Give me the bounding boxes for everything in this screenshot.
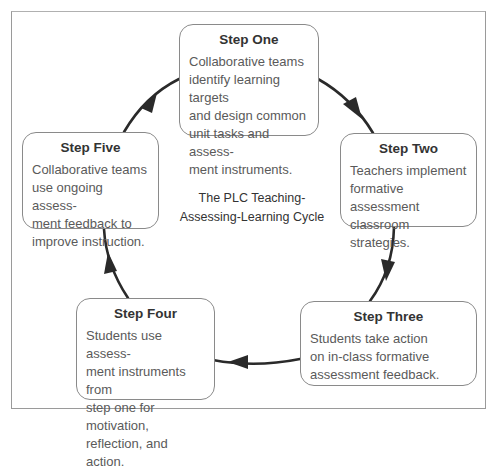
- arrow-three-to-four: [213, 359, 300, 364]
- step-one-box: Step One Collaborative teams identify le…: [179, 24, 319, 136]
- step-two-box: Step Two Teachers implement formative as…: [340, 133, 477, 227]
- step-four-box: Step Four Students use assess- ment inst…: [76, 298, 215, 400]
- arrow-one-to-two: [318, 79, 373, 133]
- step-four-body: Students use assess- ment instruments fr…: [86, 327, 205, 470]
- step-five-title: Step Five: [32, 139, 149, 157]
- cycle-title: The PLC Teaching- Assessing-Learning Cyc…: [172, 189, 332, 227]
- step-one-title: Step One: [189, 31, 309, 49]
- step-four-title: Step Four: [86, 305, 205, 323]
- step-two-body: Teachers implement formative assessment …: [350, 162, 467, 252]
- step-three-box: Step Three Students take action on in-cl…: [300, 301, 477, 386]
- step-one-body: Collaborative teams identify learning ta…: [189, 53, 309, 179]
- arrowhead-five-to-one: [141, 93, 157, 113]
- step-two-title: Step Two: [350, 140, 467, 158]
- step-three-title: Step Three: [310, 308, 467, 326]
- step-three-body: Students take action on in-class formati…: [310, 330, 467, 384]
- step-five-body: Collaborative teams use ongoing assess- …: [32, 161, 149, 251]
- arrowhead-four-to-five: [104, 252, 117, 274]
- step-five-box: Step Five Collaborative teams use ongoin…: [22, 132, 159, 229]
- arrowhead-three-to-four: [228, 355, 248, 369]
